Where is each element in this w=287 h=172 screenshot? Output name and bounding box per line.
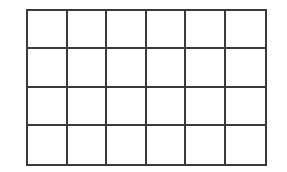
- grid-cell: [147, 126, 187, 164]
- grid-cell: [226, 126, 266, 164]
- diagram-canvas: [0, 0, 287, 172]
- grid-cell: [107, 11, 147, 49]
- grid-cell: [186, 88, 226, 126]
- grid-cell: [147, 88, 187, 126]
- grid-cell: [226, 88, 266, 126]
- grid-cell: [107, 88, 147, 126]
- grid-cell: [186, 49, 226, 87]
- grid-cell: [147, 49, 187, 87]
- grid-cell: [28, 11, 68, 49]
- grid-cell: [28, 49, 68, 87]
- grid-cell: [28, 126, 68, 164]
- grid-cell: [68, 49, 108, 87]
- grid-cell: [68, 11, 108, 49]
- grid-cell: [68, 126, 108, 164]
- rectangular-grid: [26, 9, 267, 166]
- grid-cell: [107, 126, 147, 164]
- grid-cell: [226, 49, 266, 87]
- grid-cell: [147, 11, 187, 49]
- grid-cell: [186, 126, 226, 164]
- grid-cell: [186, 11, 226, 49]
- grid-cell: [226, 11, 266, 49]
- grid-cell: [107, 49, 147, 87]
- grid-cell: [28, 88, 68, 126]
- grid-cell: [68, 88, 108, 126]
